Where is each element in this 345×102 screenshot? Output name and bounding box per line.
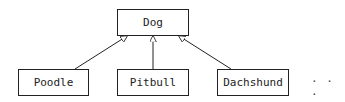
class-pitbull: Pitbull — [117, 69, 189, 96]
class-dog: Dog — [117, 9, 189, 36]
class-dachshund-label: Dachshund — [223, 76, 283, 89]
class-dog-label: Dog — [143, 16, 163, 29]
ellipsis: · · · — [311, 75, 345, 101]
arrow-dachshund-to-dog — [179, 36, 231, 69]
arrow-poodle-to-dog — [75, 36, 127, 69]
class-poodle-label: Poodle — [34, 76, 74, 89]
class-pitbull-label: Pitbull — [130, 76, 176, 89]
class-poodle: Poodle — [18, 69, 89, 96]
class-dachshund: Dachshund — [217, 69, 289, 96]
